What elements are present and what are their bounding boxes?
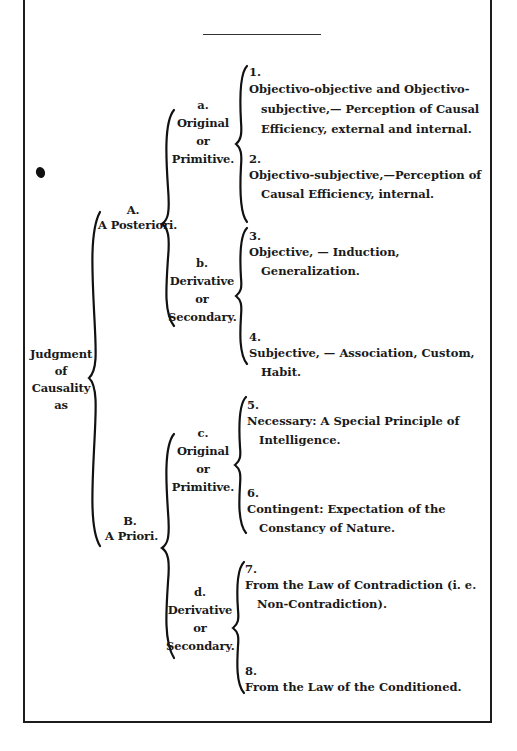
item-text: Objective, — Induction, Generalization. <box>249 243 487 281</box>
root-line: as <box>30 397 92 414</box>
item-number: 3. <box>249 229 487 243</box>
subcategory-line: or <box>170 132 236 150</box>
item-number: 2. <box>249 152 487 166</box>
category-letter: A. <box>98 203 168 218</box>
category-label: A Priori. <box>105 529 155 544</box>
item-5: 5. Necessary: A Special Principle of Int… <box>247 398 485 450</box>
subcategory-line: Secondary. <box>168 308 236 326</box>
item-7: 7. From the Law of Contradiction (i. e. … <box>245 562 485 614</box>
category-a-priori: B. A Priori. <box>105 514 155 544</box>
item-text: Subjective, — Association, Custom, Habit… <box>249 344 489 382</box>
root-line: of <box>30 363 92 380</box>
subcategory-line: Derivative <box>166 601 234 619</box>
subcategory-letter: c. <box>170 424 236 442</box>
item-8: 8. From the Law of the Conditioned. <box>245 664 485 697</box>
item-number: 6. <box>247 486 485 500</box>
subcategory-c: c. Original or Primitive. <box>170 424 236 496</box>
category-letter: B. <box>105 514 155 529</box>
subcategory-line: or <box>166 619 234 637</box>
root-line: Causality <box>30 380 92 397</box>
subcategory-line: Original <box>170 114 236 132</box>
item-text: Necessary: A Special Principle of Intell… <box>247 412 485 450</box>
subcategory-line: Secondary. <box>166 637 234 655</box>
item-number: 1. <box>249 65 487 79</box>
item-3: 3. Objective, — Induction, Generalizatio… <box>249 229 487 281</box>
subcategory-line: or <box>170 460 236 478</box>
item-6: 6. Contingent: Expectation of the Consta… <box>247 486 485 538</box>
subcategory-a: a. Original or Primitive. <box>170 96 236 168</box>
category-a-posteriori: A. A Posteriori. <box>98 203 168 233</box>
subcategory-line: Primitive. <box>170 478 236 496</box>
subcategory-line: Derivative <box>168 272 236 290</box>
root-line: Judgment <box>30 346 92 363</box>
item-number: 8. <box>245 664 485 678</box>
category-label: A Posteriori. <box>98 218 168 233</box>
item-text: Contingent: Expectation of the Constancy… <box>247 500 485 538</box>
item-text: Objectivo-subjective,—Perception of Caus… <box>249 166 487 204</box>
item-number: 7. <box>245 562 485 576</box>
section-rule <box>203 34 321 35</box>
subcategory-line: Primitive. <box>170 150 236 168</box>
root-brace-icon <box>86 210 106 550</box>
item-number: 5. <box>247 398 485 412</box>
subcategory-line: or <box>168 290 236 308</box>
item-1: 1. Objectivo-objective and Objectivo-sub… <box>249 65 487 139</box>
item-2: 2. Objectivo-subjective,—Perception of C… <box>249 152 487 204</box>
subcategory-letter: a. <box>170 96 236 114</box>
item-text: From the Law of the Conditioned. <box>245 678 485 697</box>
subcategory-line: Original <box>170 442 236 460</box>
subcategory-d: d. Derivative or Secondary. <box>166 583 234 655</box>
subcategory-letter: d. <box>166 583 234 601</box>
item-number: 4. <box>249 330 489 344</box>
subcategory-b: b. Derivative or Secondary. <box>168 254 236 326</box>
root-label: Judgment of Causality as <box>30 346 92 414</box>
subcategory-letter: b. <box>168 254 236 272</box>
item-4: 4. Subjective, — Association, Custom, Ha… <box>249 330 489 382</box>
item-text: From the Law of Contradiction (i. e. Non… <box>245 576 485 614</box>
item-text: Objectivo-objective and Objectivo-subjec… <box>249 79 487 139</box>
